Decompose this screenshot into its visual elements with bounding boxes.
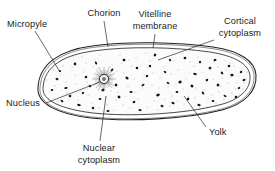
leader-chorion	[104, 21, 108, 47]
cortical-cytoplasm-boundary	[43, 48, 250, 115]
insect-egg-diagram: Micropyle Chorion Vitelline membrane Cor…	[0, 0, 275, 171]
label-nucleus: Nucleus	[6, 98, 40, 108]
leader-micropyle	[35, 31, 60, 72]
label-cortical-cytoplasm-line2: cytoplasm	[219, 28, 262, 38]
label-chorion: Chorion	[88, 8, 121, 18]
label-nuclear-cytoplasm-line2: cytoplasm	[78, 155, 121, 165]
label-yolk: Yolk	[209, 127, 227, 137]
leader-vitelline-membrane	[153, 34, 155, 48]
label-vitelline-membrane-line2: membrane	[133, 21, 178, 31]
nucleus-structure	[99, 74, 108, 83]
label-vitelline-membrane-line1: Vitelline	[139, 9, 172, 19]
label-cortical-cytoplasm-line1: Cortical	[224, 16, 256, 26]
diagram-canvas: Micropyle Chorion Vitelline membrane Cor…	[0, 0, 275, 171]
label-nuclear-cytoplasm-line1: Nuclear	[83, 143, 115, 153]
label-micropyle: Micropyle	[7, 19, 47, 29]
egg-body	[38, 43, 256, 120]
